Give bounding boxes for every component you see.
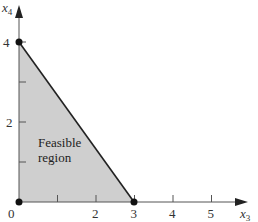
x-tick-label-3: 3 xyxy=(131,206,138,221)
x-axis-label: x3 xyxy=(239,206,251,222)
corner-point-0-4 xyxy=(16,39,23,46)
corner-point-origin xyxy=(16,199,23,206)
feasible-region-diagram: 0 2 3 4 5 4 2 x3 x4 Feasible region xyxy=(0,0,258,222)
region-label-line2: region xyxy=(38,150,72,165)
x-tick-label-0: 0 xyxy=(8,206,15,221)
x-tick-label-4: 4 xyxy=(169,206,176,221)
x-tick-label-2: 2 xyxy=(92,206,99,221)
region-label-line1: Feasible xyxy=(38,135,82,150)
y-tick-label-2: 2 xyxy=(6,115,13,130)
corner-point-3-0 xyxy=(131,199,138,206)
y-axis-label: x4 xyxy=(1,0,13,17)
y-tick-label-4: 4 xyxy=(3,35,10,50)
x-axis-arrow-icon xyxy=(235,198,248,206)
y-axis-arrow-icon xyxy=(15,5,23,18)
x-tick-label-5: 5 xyxy=(208,206,215,221)
